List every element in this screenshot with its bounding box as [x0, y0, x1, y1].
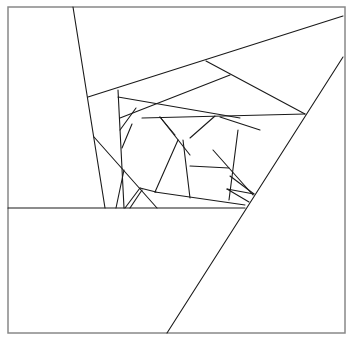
segment-inner-mid-b	[142, 114, 305, 118]
segment-inner-vertical-left	[118, 90, 124, 208]
segment-pentagon-bottom	[155, 192, 245, 205]
line-art-diagram	[0, 0, 350, 339]
segment-inner-top-a	[118, 97, 240, 118]
line-segments	[8, 7, 343, 333]
segment-inner-wedge-a	[120, 108, 136, 130]
segment-pentagon-left-long	[155, 140, 178, 192]
segment-pentagon-top-left	[160, 117, 175, 135]
segment-pentagon-right-edge	[220, 117, 260, 130]
segment-upper-diagonal	[88, 16, 343, 97]
diagram-frame	[8, 7, 345, 333]
segment-pentagon-top	[190, 116, 215, 138]
segment-right-triangle-edge	[213, 150, 253, 195]
segment-pentagon-mid-horizontal	[190, 166, 229, 168]
segment-pentagon-inner-vert	[183, 140, 190, 198]
segment-steep-left	[73, 7, 105, 208]
diagram-canvas	[0, 0, 350, 339]
segment-inner-top-b	[206, 61, 305, 114]
segment-right-long-diagonal	[167, 57, 343, 333]
segment-inner-wedge-b	[122, 124, 132, 148]
